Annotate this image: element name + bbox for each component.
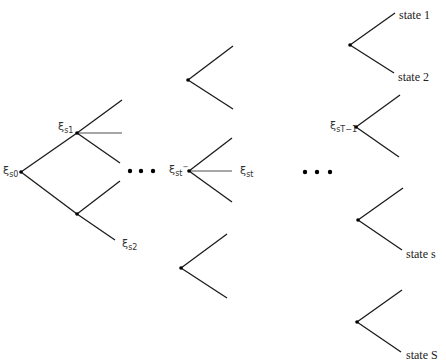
label-state-2: state 2 [398,71,429,83]
ellipsis-icon [303,170,332,174]
edge-right3-upper [358,188,403,220]
node-s0 [19,170,23,174]
label-xi-s1: ξs1 [58,121,73,135]
edge-s2-upper [77,181,120,214]
node-s2 [75,212,79,216]
node-right-3 [356,218,360,222]
xi-subscript: s1 [64,126,73,135]
xi-subscript: s2 [128,243,137,252]
label-xi-st: ξst [240,165,253,179]
edge-midtop-lower [188,80,233,109]
edge-s0-s1 [21,133,77,172]
tree-canvas [0,0,446,361]
ellipsis-icon [128,169,155,173]
node-mid-bottom [179,266,183,270]
node-s1 [75,131,79,135]
xi-subscript: st [246,170,253,179]
scenario-tree-diagram: ξs0 ξs1 ξs2 ξst− ξst ξsT−1 state 1 state… [0,0,446,361]
edge-right3-lower [358,220,402,250]
edge-midtop-upper [188,46,233,80]
edge-right1-lower [350,45,394,73]
edge-midbottom-upper [181,234,227,268]
label-state-1: state 1 [399,9,430,21]
xi-subscript: sT−1 [336,125,357,134]
edge-right4-lower [357,322,401,352]
xi-subscript: s0 [9,170,18,179]
edge-s2-lower [77,214,115,240]
edge-sT1-upper [356,95,400,127]
label-xi-st-minus: ξst− [169,164,188,178]
edge-st-upper [189,138,232,171]
label-state-S: state S [406,349,438,361]
edge-right1-upper [350,13,395,45]
label-state-s: state s [406,248,436,260]
label-xi-sT-minus-1: ξsT−1 [330,120,357,134]
label-xi-s2: ξs2 [122,238,137,252]
edge-right4-upper [357,290,402,322]
edge-s1-lower [77,133,120,163]
xi-superscript: − [182,163,188,171]
node-mid-top [186,78,190,82]
label-xi-s0: ξs0 [3,165,18,179]
edge-midbottom-lower [181,268,227,298]
edge-sT1-lower [356,127,399,157]
node-right-4 [355,320,359,324]
edge-s1-upper [77,100,122,133]
node-right-1 [348,43,352,47]
edge-st-lower [189,171,232,202]
edge-s0-s2 [21,172,77,214]
